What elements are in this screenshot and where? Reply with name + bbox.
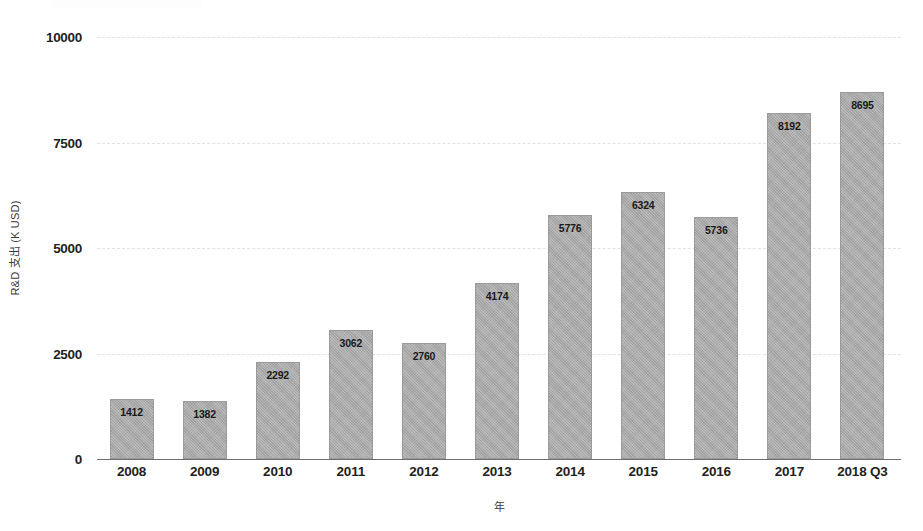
bar-value-label: 1412 <box>111 406 153 418</box>
bar[interactable]: 8695 <box>840 92 884 459</box>
title-remnant <box>52 0 202 8</box>
x-axis-tick-label: 2008 <box>117 464 146 479</box>
bar[interactable]: 5736 <box>694 217 738 459</box>
x-axis-line <box>97 459 901 460</box>
x-axis-tick-label: 2011 <box>337 464 366 479</box>
x-axis-title: 年 <box>494 498 505 514</box>
x-axis-tick-label: 2016 <box>702 464 731 479</box>
y-axis-tick-label: 0 <box>75 452 82 467</box>
y-axis-tick-label: 7500 <box>53 135 82 150</box>
y-axis-tick-labels: 025005000750010000 <box>0 37 88 459</box>
x-axis-tick-label: 2009 <box>190 464 219 479</box>
bar-chart: R&D 支出 (K USD) 025005000750010000 141213… <box>0 0 923 531</box>
bar-value-label: 8192 <box>768 120 810 132</box>
bar[interactable]: 8192 <box>767 113 811 459</box>
bar-value-label: 6324 <box>622 199 664 211</box>
bar[interactable]: 6324 <box>621 192 665 459</box>
plot-area: 1412138222923062276041745776632457368192… <box>97 37 901 459</box>
bar-value-label: 5736 <box>695 224 737 236</box>
bar[interactable]: 4174 <box>475 283 519 459</box>
bar[interactable]: 5776 <box>548 215 592 459</box>
x-axis-tick-label: 2014 <box>555 464 584 479</box>
bar-value-label: 3062 <box>330 337 372 349</box>
bar[interactable]: 1412 <box>110 399 154 459</box>
bar-value-label: 8695 <box>841 99 883 111</box>
y-axis-tick-label: 2500 <box>53 346 82 361</box>
x-axis-tick-label: 2012 <box>409 464 438 479</box>
bar-value-label: 5776 <box>549 222 591 234</box>
bar-series: 1412138222923062276041745776632457368192… <box>97 37 901 459</box>
bar[interactable]: 2760 <box>402 343 446 459</box>
x-axis-tick-labels: 2008200920102011201220132014201520162017… <box>97 464 901 490</box>
bar-value-label: 4174 <box>476 290 518 302</box>
bar-value-label: 1382 <box>184 408 226 420</box>
y-axis-tick-label: 5000 <box>53 241 82 256</box>
x-axis-tick-label: 2013 <box>482 464 511 479</box>
y-axis-tick-label: 10000 <box>46 30 82 45</box>
bar[interactable]: 1382 <box>183 401 227 459</box>
bar[interactable]: 2292 <box>256 362 300 459</box>
x-axis-tick-label: 2015 <box>629 464 658 479</box>
bar-value-label: 2760 <box>403 350 445 362</box>
x-axis-tick-label: 2017 <box>775 464 804 479</box>
bar[interactable]: 3062 <box>329 330 373 459</box>
x-axis-tick-label: 2010 <box>263 464 292 479</box>
bar-value-label: 2292 <box>257 369 299 381</box>
x-axis-tick-label: 2018 Q3 <box>837 464 887 479</box>
